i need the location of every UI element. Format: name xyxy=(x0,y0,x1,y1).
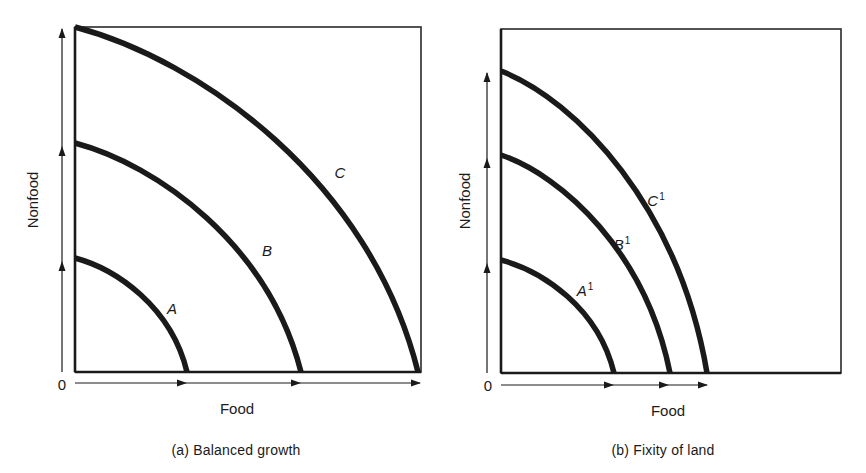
curve-label-A: A xyxy=(167,300,177,317)
panel-b-x-axis-label: Food xyxy=(651,402,685,419)
curve-label-B1: B1 xyxy=(614,235,631,253)
panel-b-y-axis-label: Nonfood xyxy=(456,173,473,230)
panel-b-caption: (b) Fixity of land xyxy=(611,442,714,458)
curve-label-C1-letter: C xyxy=(647,192,658,209)
curve-label-C1: C1 xyxy=(647,191,664,209)
curve-label-A1: A1 xyxy=(577,281,594,299)
curve-label-B: B xyxy=(262,242,272,259)
ppf-curve-A1 xyxy=(501,260,614,373)
curve-label-B1-letter: B xyxy=(614,236,624,253)
panel-a-x-axis-label: Food xyxy=(220,400,254,417)
curve-label-C: C xyxy=(335,164,346,181)
panel-a-y-axis-label: Nonfood xyxy=(24,172,41,229)
curve-label-A1-superscript: 1 xyxy=(588,281,594,292)
panel-a-origin-label: 0 xyxy=(58,376,66,393)
curve-label-C1-superscript: 1 xyxy=(659,191,665,202)
ppf-curve-B1 xyxy=(501,155,670,373)
ppf-curve-C xyxy=(75,27,418,372)
production-possibility-figure xyxy=(0,0,866,473)
panel-b-frame xyxy=(501,29,841,373)
panel-a-balanced-growth xyxy=(62,27,421,383)
ppf-curve-C1 xyxy=(501,71,707,373)
curve-label-A1-letter: A xyxy=(577,282,587,299)
panel-a-caption: (a) Balanced growth xyxy=(171,442,300,458)
panel-a-frame xyxy=(75,27,421,372)
panel-b-origin-label: 0 xyxy=(484,377,492,394)
curve-label-B1-superscript: 1 xyxy=(625,235,631,246)
